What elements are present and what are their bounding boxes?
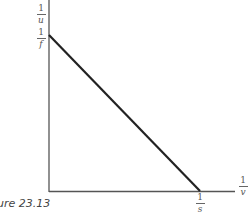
figure-caption: ure 23.13 xyxy=(0,197,50,210)
x-axis-label: 1 v xyxy=(236,176,250,197)
x-intercept-label: 1 s xyxy=(193,193,207,213)
y-axis-label: 1 u xyxy=(34,4,48,25)
plot-line xyxy=(49,35,200,191)
y-intercept-label: 1 f xyxy=(34,28,48,49)
